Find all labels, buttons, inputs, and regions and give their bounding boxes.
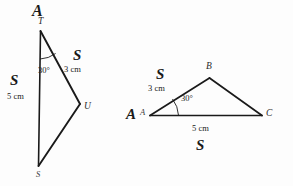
left-triangle-side-congruence-mark-S: S bbox=[10, 73, 18, 88]
left-triangle-side-length: 5 cm bbox=[7, 92, 24, 101]
geometry-figure bbox=[0, 0, 293, 186]
right-triangle-vertex-C: C bbox=[266, 109, 272, 119]
diagram-canvas: A T S 3 cm 30° S 5 cm U S S 3 cm B 30° A… bbox=[0, 0, 293, 186]
right-triangle-slant-length: 3 cm bbox=[148, 84, 165, 93]
left-triangle-slant-length: 3 cm bbox=[64, 65, 81, 74]
right-triangle-shape bbox=[150, 78, 262, 116]
right-triangle-angle-label: 30° bbox=[181, 94, 193, 103]
left-triangle-vertex-U: U bbox=[84, 102, 91, 112]
left-triangle-slant-congruence-mark-S: S bbox=[73, 48, 81, 63]
left-triangle-vertex-T: T bbox=[38, 17, 43, 27]
left-triangle-side-US bbox=[39, 104, 81, 166]
right-triangle-side-BC bbox=[210, 78, 263, 116]
right-triangle-angle-congruence-mark-A: A bbox=[126, 107, 136, 122]
right-triangle-base-congruence-mark-S: S bbox=[196, 138, 204, 153]
right-triangle-slant-congruence-mark-S: S bbox=[156, 67, 164, 82]
left-triangle-angle-label: 30° bbox=[38, 66, 50, 75]
left-triangle-side-TS bbox=[39, 31, 41, 166]
right-triangle-vertex-B: B bbox=[206, 62, 212, 72]
left-triangle-vertex-S: S bbox=[36, 170, 40, 179]
right-triangle-vertex-A: A bbox=[140, 108, 145, 117]
right-triangle-base-length: 5 cm bbox=[192, 124, 209, 133]
